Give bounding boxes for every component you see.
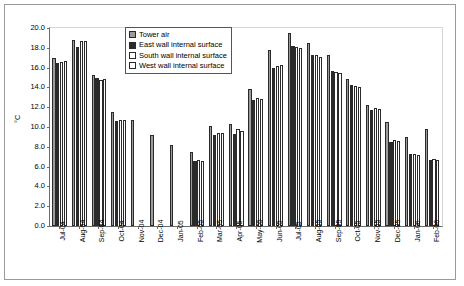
bar <box>366 105 369 226</box>
bar-series-container <box>50 28 442 226</box>
bar <box>405 137 408 226</box>
x-axis-tick-label: Oct-05 <box>354 220 361 241</box>
x-axis-category: Jan-06 <box>404 229 424 281</box>
bar <box>311 55 314 226</box>
y-axis-tick-label: 20.0 <box>30 24 45 32</box>
bar <box>354 86 357 226</box>
x-axis-category: Jul-04 <box>49 229 69 281</box>
bar <box>260 99 263 226</box>
bar <box>209 126 212 226</box>
x-axis-category: Jun-05 <box>266 229 286 281</box>
bar <box>248 89 251 226</box>
bar <box>201 161 204 226</box>
bar-group <box>50 28 70 226</box>
x-axis-tick-label: Oct-04 <box>118 220 125 241</box>
bar <box>370 110 373 226</box>
bar <box>99 80 102 226</box>
bar-group <box>364 28 384 226</box>
y-axis-tick-label: 18.0 <box>30 44 45 52</box>
bar <box>272 68 275 226</box>
x-axis-tick-label: Jul-05 <box>295 221 302 240</box>
y-axis-label: °C <box>13 115 22 123</box>
x-axis-tick-label: Feb-05 <box>197 220 204 242</box>
x-axis-category: Nov-05 <box>364 229 384 281</box>
bar <box>119 120 122 226</box>
y-axis-tick-label: 14.0 <box>30 84 45 92</box>
bar <box>307 43 310 226</box>
bar <box>319 57 322 226</box>
chart-legend: Tower airEast wall internal surfaceSouth… <box>125 27 232 74</box>
x-axis-tick-label: Aug-04 <box>79 220 86 243</box>
bar <box>280 65 283 226</box>
bar <box>64 61 67 226</box>
bar <box>331 71 334 226</box>
legend-label: East wall internal surface <box>139 40 222 49</box>
x-axis-tick-label: Dec-05 <box>394 220 401 243</box>
bar <box>95 78 98 227</box>
bar <box>276 66 279 226</box>
bar <box>115 121 118 226</box>
bar <box>393 140 396 226</box>
x-axis-tick-label: Sep-04 <box>98 220 105 243</box>
bar-group <box>285 28 305 226</box>
bar <box>338 73 341 226</box>
bar <box>72 40 75 226</box>
x-axis-category: Mar-05 <box>207 229 227 281</box>
bar <box>170 145 173 226</box>
bar <box>52 58 55 226</box>
bar <box>229 124 232 226</box>
x-axis-tick-label: Feb-06 <box>433 220 440 242</box>
x-axis-category: Sep-04 <box>88 229 108 281</box>
x-axis-category: Feb-05 <box>187 229 207 281</box>
y-axis-tick-label: 2.0 <box>35 202 45 210</box>
bar <box>233 134 236 226</box>
legend-swatch-icon <box>129 62 136 69</box>
x-axis-tick-label: Jul-04 <box>59 221 66 240</box>
bar <box>288 33 291 226</box>
x-axis-tick-label: Jan-05 <box>177 220 184 241</box>
bar <box>389 142 392 226</box>
bar <box>350 85 353 226</box>
x-axis-tick-label: Jun-05 <box>276 220 283 241</box>
plot-area: 20.018.016.014.012.010.08.06.04.02.00.0 <box>49 27 443 227</box>
bar <box>397 141 400 226</box>
bar <box>103 79 106 226</box>
x-axis-category: Feb-06 <box>423 229 443 281</box>
bar <box>213 135 216 226</box>
x-axis-category: Nov-04 <box>128 229 148 281</box>
bar <box>409 154 412 226</box>
y-axis-tick-label: 4.0 <box>35 183 45 191</box>
bar <box>236 129 239 226</box>
bar-group <box>383 28 403 226</box>
bar <box>432 159 435 226</box>
y-axis-tick-label: 0.0 <box>35 222 45 230</box>
y-axis-tick-label: 6.0 <box>35 163 45 171</box>
x-axis-tick-label: May-05 <box>256 219 263 242</box>
bar <box>123 120 126 226</box>
bar <box>327 55 330 226</box>
bar <box>429 160 432 226</box>
legend-swatch-icon <box>129 31 136 38</box>
bar-group <box>89 28 109 226</box>
x-axis-category: Jul-05 <box>285 229 305 281</box>
bar <box>56 63 59 226</box>
x-axis-category: Sep-05 <box>325 229 345 281</box>
bar-group <box>403 28 423 226</box>
bar <box>385 122 388 226</box>
bar <box>252 100 255 226</box>
bar <box>256 98 259 226</box>
bar <box>193 161 196 226</box>
chart-frame: °C 20.018.016.014.012.010.08.06.04.02.00… <box>4 4 456 280</box>
legend-label: Tower air <box>139 30 169 39</box>
x-axis-category: Oct-04 <box>108 229 128 281</box>
bar <box>240 131 243 226</box>
x-axis-tick-label: Mar-05 <box>216 220 223 242</box>
bar-group <box>422 28 442 226</box>
bar-group <box>344 28 364 226</box>
x-axis-category: Dec-05 <box>384 229 404 281</box>
y-axis-tick-label: 8.0 <box>35 143 45 151</box>
bar <box>111 112 114 226</box>
bar <box>60 62 63 226</box>
x-axis-tick-label: Nov-05 <box>374 220 381 243</box>
bar-group <box>324 28 344 226</box>
